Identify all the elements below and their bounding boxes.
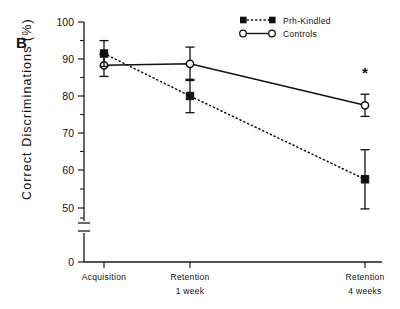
legend-marker-circle-left (240, 30, 247, 37)
series-controls (100, 47, 370, 116)
y-tick-label-80: 80 (62, 90, 74, 102)
axis-lines (84, 22, 382, 262)
y-tick-label-60: 60 (62, 164, 74, 176)
legend-label-prh-kindled: Prh-Kindled (283, 16, 331, 26)
controls-line (104, 64, 365, 106)
prh-kindled-error-bars (100, 41, 370, 209)
legend-item-prh-kindled[interactable]: Prh-Kindled (240, 16, 331, 26)
controls-error-bars (100, 47, 370, 116)
controls-point-retention-1-week (186, 60, 193, 67)
y-tick-label-0: 0 (68, 256, 74, 268)
controls-point-retention-4-weeks (361, 102, 368, 109)
y-tick-label-50: 50 (62, 202, 74, 214)
legend-marker-square-right (269, 17, 276, 24)
prh-kindled-point-retention-4-weeks (361, 176, 368, 183)
significance-asterisk: * (362, 64, 368, 81)
y-tick-labels: 100 90 80 70 60 50 0 (56, 16, 74, 268)
axis-break-marks (78, 223, 90, 231)
y-tick-label-100: 100 (56, 16, 74, 28)
prh-kindled-markers (100, 50, 368, 183)
x-tick-label-retention-4-weeks: Retention (345, 272, 384, 282)
y-major-ticks (78, 22, 84, 262)
y-axis-title: Correct Discriminations (%) (20, 18, 34, 200)
prh-kindled-line (104, 54, 365, 180)
figure-panel-b: B Correct Discriminations (%) (0, 0, 400, 309)
series-prh-kindled (100, 41, 370, 209)
x-tick-labels: Acquisition Retention 1 week Retention 4… (82, 272, 385, 296)
prh-kindled-point-retention-1-week (186, 92, 193, 99)
x-ticks (104, 262, 365, 268)
y-tick-label-70: 70 (62, 127, 74, 139)
y-tick-label-90: 90 (62, 53, 74, 65)
legend-marker-square-left (240, 17, 247, 24)
prh-kindled-point-acquisition (100, 50, 107, 57)
legend-marker-circle-right (269, 30, 276, 37)
legend-label-controls: Controls (283, 29, 317, 39)
x-tick-label-acquisition: Acquisition (82, 272, 126, 282)
line-chart-svg: B Correct Discriminations (%) (0, 0, 400, 309)
x-tick-label-retention-1-week: Retention (170, 272, 209, 282)
x-tick-sublabel-4-weeks: 4 weeks (348, 286, 381, 296)
chart-canvas: B Correct Discriminations (%) (0, 0, 400, 309)
chart-legend: Prh-Kindled Controls (240, 16, 331, 40)
x-tick-sublabel-1-week: 1 week (176, 286, 205, 296)
legend-item-controls[interactable]: Controls (240, 29, 317, 39)
controls-markers (100, 60, 368, 109)
